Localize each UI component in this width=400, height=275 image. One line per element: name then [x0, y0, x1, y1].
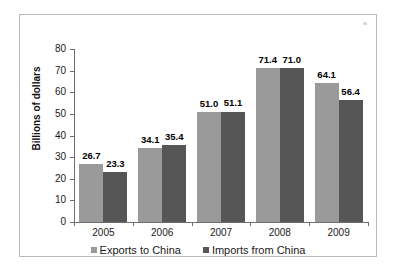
x-axis-tick — [250, 222, 251, 226]
bar-exports-2007[interactable] — [197, 112, 221, 222]
chart-frame: Billions of dollars 80706050403020100 26… — [19, 14, 377, 257]
legend-label-exports: Exports to China — [100, 244, 181, 256]
y-axis-tick-label: 30 — [40, 152, 66, 162]
y-axis-tick-label: 20 — [40, 174, 66, 184]
y-axis-tick-label: 60 — [40, 87, 66, 97]
x-axis-label-2008: 2008 — [250, 227, 310, 238]
x-axis-label-2007: 2007 — [191, 227, 251, 238]
bar-imports-2007[interactable] — [221, 112, 245, 223]
y-axis-tick-label: 0 — [40, 217, 66, 227]
bar-exports-2009[interactable] — [315, 83, 339, 222]
y-axis-tick-label: 80 — [40, 44, 66, 54]
bar-value-label: 56.4 — [338, 87, 364, 97]
legend-item-exports[interactable]: Exports to China — [91, 244, 181, 256]
legend-item-imports[interactable]: Imports from China — [203, 244, 306, 256]
x-axis-label-2009: 2009 — [309, 227, 369, 238]
plot-area: 26.723.334.135.451.051.171.471.064.156.4 — [74, 49, 368, 222]
x-axis-tick — [133, 222, 134, 226]
chart-legend: Exports to China Imports from China — [20, 244, 376, 256]
y-axis-tick-label: 70 — [40, 66, 66, 76]
x-axis-tick — [192, 222, 193, 226]
x-axis-label-2005: 2005 — [73, 227, 133, 238]
bar-value-label: 23.3 — [102, 159, 128, 169]
bar-exports-2006[interactable] — [138, 148, 162, 222]
legend-swatch-icon-imports — [203, 247, 209, 253]
bar-value-label: 26.7 — [78, 151, 104, 161]
bar-imports-2008[interactable] — [280, 68, 304, 222]
chart-plot-wrapper: Billions of dollars 80706050403020100 26… — [20, 15, 376, 256]
x-axis-line — [74, 222, 369, 223]
bar-exports-2005[interactable] — [79, 164, 103, 222]
bar-value-label: 34.1 — [137, 135, 163, 145]
x-axis-label-2006: 2006 — [132, 227, 192, 238]
bar-value-label: 64.1 — [314, 70, 340, 80]
y-axis-tick-label: 50 — [40, 109, 66, 119]
bar-exports-2008[interactable] — [256, 68, 280, 222]
legend-label-imports: Imports from China — [212, 244, 306, 256]
bar-value-label: 51.0 — [196, 99, 222, 109]
bar-imports-2005[interactable] — [103, 172, 127, 222]
bar-value-label: 51.1 — [220, 98, 246, 108]
y-axis-tick-label: 10 — [40, 195, 66, 205]
legend-swatch-icon-exports — [91, 247, 97, 253]
x-axis-tick — [368, 222, 369, 226]
bar-value-label: 71.0 — [279, 55, 305, 65]
y-axis-tick-label: 40 — [40, 131, 66, 141]
bar-imports-2006[interactable] — [162, 145, 186, 222]
bar-imports-2009[interactable] — [339, 100, 363, 222]
bar-value-label: 71.4 — [255, 55, 281, 65]
x-axis-tick — [74, 222, 75, 226]
x-axis-tick — [309, 222, 310, 226]
bar-value-label: 35.4 — [161, 132, 187, 142]
